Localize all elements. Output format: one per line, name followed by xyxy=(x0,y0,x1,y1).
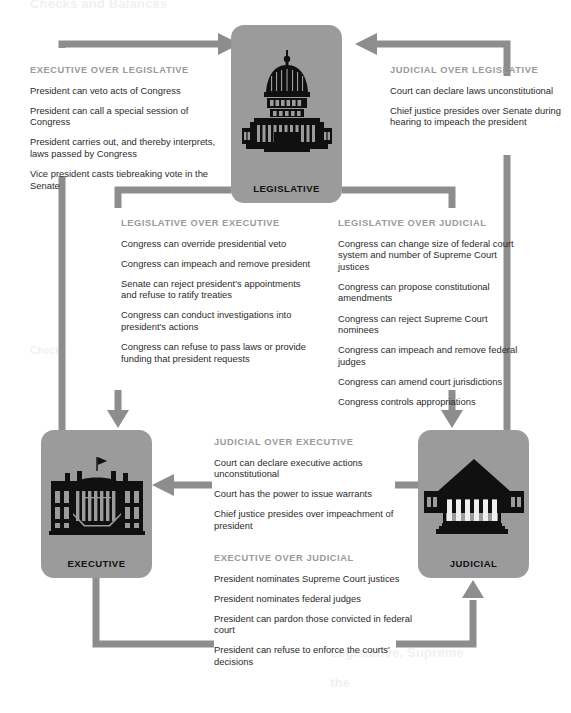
block-heading: EXECUTIVE OVER LEGISLATIVE xyxy=(30,65,230,77)
list-item: Congress can impeach and remove presiden… xyxy=(121,258,311,270)
white-house-icon xyxy=(41,430,152,558)
list-item: Congress can override presidential veto xyxy=(121,238,311,250)
block-heading: LEGISLATIVE OVER JUDICIAL xyxy=(338,218,528,230)
list-item: Congress can impeach and remove federal … xyxy=(338,344,528,367)
block-list: President nominates Supreme Court justic… xyxy=(214,573,414,668)
block-list: Court can declare executive actions unco… xyxy=(214,457,414,532)
list-item: Congress can conduct investigations into… xyxy=(121,309,311,332)
block-list: Congress can override presidential veto … xyxy=(121,238,311,365)
branch-label-executive: EXECUTIVE xyxy=(68,558,126,569)
list-item: President nominates Supreme Court justic… xyxy=(214,573,414,585)
block-judicial-over-legislative: JUDICIAL OVER LEGISLATIVE Court can decl… xyxy=(390,65,565,128)
block-executive-over-judicial: EXECUTIVE OVER JUDICIAL President nomina… xyxy=(214,553,414,668)
block-list: Congress can change size of federal cour… xyxy=(338,238,528,408)
capitol-dome-icon xyxy=(231,25,342,183)
list-item: Chief justice presides over impeachment … xyxy=(214,508,414,531)
list-item: Court has the power to issue warrants xyxy=(214,488,414,500)
block-executive-over-legislative: EXECUTIVE OVER LEGISLATIVE President can… xyxy=(30,65,230,191)
list-item: President can pardon those convicted in … xyxy=(214,613,414,636)
list-item: Congress can amend court jurisdictions xyxy=(338,376,528,388)
list-item: Congress controls appropriations xyxy=(338,396,528,408)
block-legislative-over-executive: LEGISLATIVE OVER EXECUTIVE Congress can … xyxy=(121,218,311,364)
list-item: President nominates federal judges xyxy=(214,593,414,605)
branch-box-legislative[interactable]: LEGISLATIVE xyxy=(231,25,342,203)
block-heading: JUDICIAL OVER EXECUTIVE xyxy=(214,437,414,449)
supreme-court-icon xyxy=(418,430,529,558)
block-heading: EXECUTIVE OVER JUDICIAL xyxy=(214,553,414,565)
list-item: President can refuse to enforce the cour… xyxy=(214,644,414,667)
list-item: President can veto acts of Congress xyxy=(30,85,230,97)
block-list: President can veto acts of Congress Pres… xyxy=(30,85,230,192)
block-list: Court can declare laws unconstitutional … xyxy=(390,85,565,128)
block-judicial-over-executive: JUDICIAL OVER EXECUTIVE Court can declar… xyxy=(214,437,414,532)
list-item: Vice president casts tiebreaking vote in… xyxy=(30,168,230,191)
branch-label-legislative: LEGISLATIVE xyxy=(253,183,320,194)
list-item: Congress can change size of federal cour… xyxy=(338,238,528,273)
list-item: Senate can reject president's appointmen… xyxy=(121,278,311,301)
list-item: Chief justice presides over Senate durin… xyxy=(390,105,565,128)
list-item: President carries out, and thereby inter… xyxy=(30,136,230,159)
list-item: Congress can reject Supreme Court nomine… xyxy=(338,313,528,336)
checks-and-balances-diagram: Checks and Balances Checks Legislative, … xyxy=(0,0,571,713)
list-item: Court can declare laws unconstitutional xyxy=(390,85,565,97)
block-heading: JUDICIAL OVER LEGISLATIVE xyxy=(390,65,565,77)
list-item: Congress can propose constitutional amen… xyxy=(338,281,528,304)
branch-box-executive[interactable]: EXECUTIVE xyxy=(41,430,152,578)
list-item: President can call a special session of … xyxy=(30,105,230,128)
block-heading: LEGISLATIVE OVER EXECUTIVE xyxy=(121,218,311,230)
block-legislative-over-judicial: LEGISLATIVE OVER JUDICIAL Congress can c… xyxy=(338,218,528,408)
list-item: Congress can refuse to pass laws or prov… xyxy=(121,341,311,364)
branch-label-judicial: JUDICIAL xyxy=(450,558,497,569)
branch-box-judicial[interactable]: JUDICIAL xyxy=(418,430,529,578)
list-item: Court can declare executive actions unco… xyxy=(214,457,414,480)
